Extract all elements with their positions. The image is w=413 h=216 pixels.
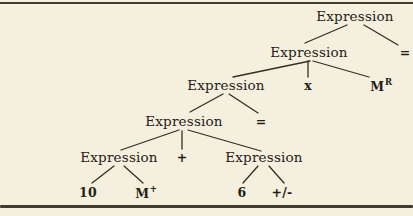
- tree-edge-expr-2-eq-mid: [229, 94, 258, 113]
- tree-node-expr-4: Expression: [80, 151, 158, 165]
- tree-node-mem-plus-superscript: +: [150, 184, 157, 194]
- tree-edges: [0, 0, 413, 216]
- tree-node-eq-mid: =: [256, 116, 267, 129]
- tree-node-expr-1: Expression: [270, 46, 348, 60]
- tree-edge-expr-3-expr-5: [188, 130, 261, 151]
- tree-node-plus: +: [177, 152, 188, 165]
- tree-edge-expr-5-plus-minus: [269, 166, 284, 183]
- tree-edge-expr-1-mem-recall: [313, 61, 369, 77]
- tree-edge-expr-5-num-6: [243, 166, 258, 183]
- tree-edge-expr-1-expr-2: [233, 61, 310, 77]
- tree-node-expr-3: Expression: [145, 115, 223, 129]
- bottom-rule: [0, 205, 413, 208]
- tree-edge-expr-3-expr-4: [121, 130, 179, 150]
- tree-node-mem-recall: MR: [370, 79, 391, 94]
- tree-edge-expr-root-expr-1: [305, 25, 347, 43]
- tree-node-times: x: [304, 80, 312, 93]
- tree-edge-expr-4-num-10: [92, 166, 114, 183]
- tree-node-plus-minus: +/-: [272, 187, 293, 200]
- tree-node-expr-5: Expression: [225, 151, 303, 165]
- tree-node-eq-top: =: [400, 47, 411, 60]
- tree-node-expr-2: Expression: [187, 79, 265, 93]
- tree-edge-expr-root-eq-top: [364, 25, 398, 45]
- tree-node-num-6: 6: [238, 187, 247, 200]
- parse-tree-figure: Expression=ExpressionxMRExpression=Expre…: [0, 0, 413, 216]
- tree-node-mem-recall-superscript: R: [385, 77, 392, 87]
- tree-node-num-10: 10: [79, 187, 97, 200]
- tree-node-mem-plus: M+: [135, 186, 156, 201]
- tree-edge-expr-4-mem-plus: [124, 166, 143, 183]
- tree-node-expr-root: Expression: [316, 10, 394, 24]
- tree-edge-expr-2-expr-3: [190, 94, 223, 112]
